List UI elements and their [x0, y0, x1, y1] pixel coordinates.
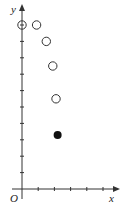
- y-axis-arrow-icon: [19, 4, 25, 11]
- scatter-plot: y x O: [0, 0, 126, 222]
- x-axis-arrow-icon: [113, 186, 120, 192]
- open-point: [49, 62, 57, 70]
- open-point: [32, 21, 40, 29]
- axis-ticks: [20, 25, 103, 191]
- x-axis-label: x: [108, 192, 114, 204]
- axes: [12, 4, 120, 199]
- y-axis-label: y: [10, 3, 16, 15]
- open-point: [52, 95, 60, 103]
- filled-point: [54, 131, 62, 139]
- open-point: [42, 37, 50, 45]
- data-points: [18, 21, 62, 139]
- origin-label: O: [10, 192, 18, 204]
